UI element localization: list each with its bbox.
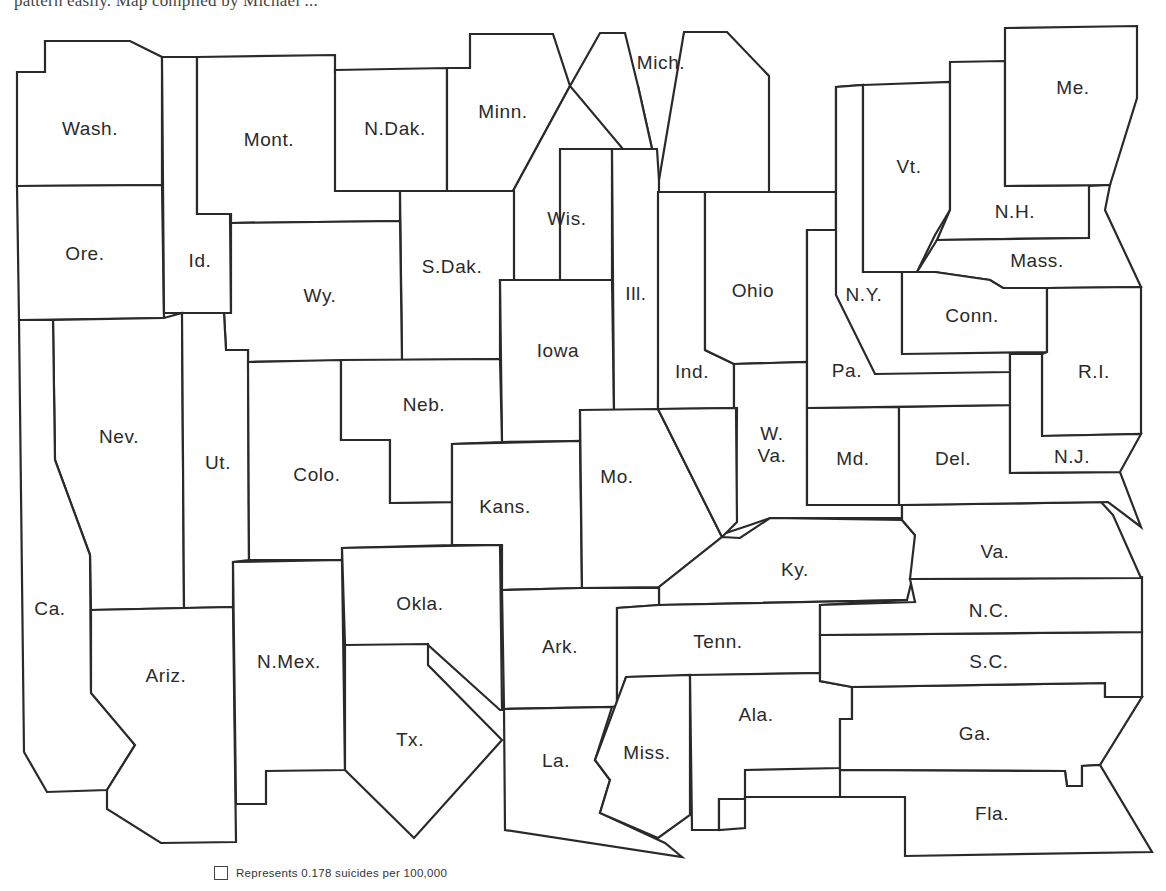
state-label-sc: S.C. <box>969 651 1008 672</box>
state-label-ark: Ark. <box>542 636 578 657</box>
state-label-ore: Ore. <box>65 243 104 264</box>
state-label-wis: Wis. <box>547 208 586 229</box>
state-label-ny: N.Y. <box>846 284 883 305</box>
state-label-ala: Ala. <box>738 704 773 725</box>
state-fla <box>719 765 1152 856</box>
state-label-miss: Miss. <box>623 742 670 763</box>
state-label-colo: Colo. <box>293 464 340 485</box>
state-label-nmex: N.Mex. <box>257 651 321 672</box>
state-label-pa: Pa. <box>832 360 862 381</box>
state-label-neb: Neb. <box>403 394 446 415</box>
state-label-del: Del. <box>935 448 971 469</box>
state-wash <box>17 41 162 186</box>
state-label-okla: Okla. <box>396 593 443 614</box>
state-label-iowa: Iowa <box>537 340 580 361</box>
state-label-wva: W.Va. <box>758 423 787 466</box>
state-label-mont: Mont. <box>244 129 295 150</box>
state-nmex <box>233 560 345 804</box>
state-label-ndak: N.Dak. <box>364 118 426 139</box>
state-label-mass: Mass. <box>1010 250 1064 271</box>
state-label-sdak: S.Dak. <box>422 256 483 277</box>
state-label-tenn: Tenn. <box>693 631 742 652</box>
state-label-ut: Ut. <box>205 452 231 473</box>
state-label-ga: Ga. <box>959 723 991 744</box>
state-label-nj: N.J. <box>1054 446 1090 467</box>
state-label-ohio: Ohio <box>732 280 775 301</box>
state-label-nev: Nev. <box>99 426 139 447</box>
state-ill <box>612 149 659 410</box>
state-label-mo: Mo. <box>600 466 633 487</box>
state-label-ariz: Ariz. <box>146 665 187 686</box>
us-state-cartogram: Wash.Ore.Id.Mont.N.Dak.Minn.Wis.Mich.S.D… <box>0 0 1166 891</box>
state-label-kans: Kans. <box>479 496 531 517</box>
state-label-va: Va. <box>981 541 1010 562</box>
state-label-wash: Wash. <box>62 118 118 139</box>
state-label-id: Id. <box>189 250 212 271</box>
state-label-ind: Ind. <box>675 361 709 382</box>
state-va <box>902 502 1141 579</box>
state-label-la: La. <box>542 750 570 771</box>
legend-square-icon <box>214 866 228 880</box>
state-ala <box>690 673 852 830</box>
state-label-vt: Vt. <box>896 156 921 177</box>
state-label-ky: Ky. <box>781 559 809 580</box>
state-label-ca: Ca. <box>34 598 65 619</box>
state-label-conn: Conn. <box>945 305 999 326</box>
legend: Represents 0.178 suicides per 100,000 <box>214 866 447 880</box>
state-me <box>1005 26 1137 186</box>
state-label-md: Md. <box>836 448 869 469</box>
state-label-nc: N.C. <box>969 600 1009 621</box>
state-label-me: Me. <box>1056 77 1089 98</box>
legend-label: Represents 0.178 suicides per 100,000 <box>236 867 447 879</box>
state-label-tx: Tx. <box>396 729 424 750</box>
state-label-mich: Mich. <box>637 52 685 73</box>
state-label-wy: Wy. <box>304 285 337 306</box>
state-label-fla: Fla. <box>975 803 1009 824</box>
state-label-nh: N.H. <box>995 201 1035 222</box>
state-label-ri: R.I. <box>1078 361 1110 382</box>
state-label-ill: Ill. <box>625 283 646 304</box>
state-label-minn: Minn. <box>478 101 527 122</box>
